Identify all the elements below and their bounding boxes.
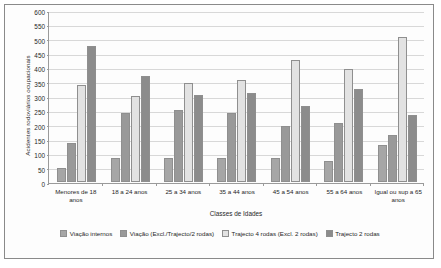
bar-group — [264, 12, 317, 182]
bar — [334, 123, 343, 182]
x-axis-tick-mark — [264, 183, 317, 186]
bar — [184, 83, 193, 182]
legend-label: Viação internos — [70, 230, 113, 237]
y-axis-tick-label: 200 — [34, 123, 45, 130]
y-axis-tick-label: 300 — [34, 95, 45, 102]
x-axis-category-label: 45 a 54 anos — [264, 188, 318, 203]
legend-swatch-icon — [222, 230, 229, 237]
chart-legend: Viação internosViação (Excl./Trajecto/2 … — [8, 230, 432, 237]
plot-wrapper: 050100150200250300350400450500550600 — [48, 12, 424, 184]
y-axis-tick-mark — [47, 69, 49, 70]
bar-group — [157, 12, 210, 182]
x-axis-category-labels: Menores de 18 anos18 a 24 anos25 a 34 an… — [49, 188, 425, 203]
x-axis-ticks — [50, 183, 424, 186]
bar — [281, 126, 290, 182]
y-axis-tick-mark — [47, 98, 49, 99]
y-axis-tick-mark — [47, 126, 49, 127]
bar-groups — [50, 12, 424, 182]
bar — [87, 46, 96, 182]
y-axis-tick-label: 250 — [34, 109, 45, 116]
bar — [344, 69, 353, 182]
bar — [217, 158, 226, 182]
y-axis-tick-label: 100 — [34, 152, 45, 159]
bar — [227, 113, 236, 182]
y-axis-tick-label: 0 — [41, 181, 45, 188]
x-axis-tick-mark — [317, 183, 370, 186]
y-axis-tick-mark — [47, 40, 49, 41]
y-axis-tick-mark — [47, 155, 49, 156]
x-axis-title: Classes de Idades — [48, 210, 424, 217]
legend-swatch-icon — [60, 230, 67, 237]
x-axis-category-label: 55 a 64 anos — [318, 188, 372, 203]
legend-label: Trajecto 2 rodas — [335, 230, 379, 237]
x-axis-category-label: 35 a 44 anos — [210, 188, 264, 203]
bar — [408, 115, 417, 182]
bar — [398, 37, 407, 182]
x-axis-tick-mark — [50, 183, 103, 186]
bar — [194, 95, 203, 182]
legend-item[interactable]: Trajecto 4 rodas (Excl. 2 rodas) — [222, 230, 318, 237]
x-axis-category-label: Menores de 18 anos — [49, 188, 103, 203]
x-axis-tick-mark — [371, 183, 424, 186]
y-axis-tick-mark — [47, 141, 49, 142]
x-axis-tick-mark — [103, 183, 156, 186]
x-axis-tick-mark — [157, 183, 210, 186]
y-axis-tick-label: 50 — [38, 166, 45, 173]
bar — [121, 113, 130, 182]
bar — [77, 85, 86, 182]
legend-label: Viação (Excl./Trajecto/2 rodas) — [130, 230, 214, 237]
y-axis-tick-mark — [47, 55, 49, 56]
y-axis-title: Acidentes rodoviários ocupacionais — [24, 21, 31, 191]
legend-label: Trajecto 4 rodas (Excl. 2 rodas) — [232, 230, 318, 237]
bar — [174, 110, 183, 182]
y-axis-tick-mark — [47, 83, 49, 84]
y-axis-tick-mark — [47, 169, 49, 170]
bar — [237, 80, 246, 182]
bar — [271, 158, 280, 182]
y-axis-tick-mark — [47, 12, 49, 13]
y-axis-tick-label: 350 — [34, 80, 45, 87]
y-axis-tick-label: 500 — [34, 37, 45, 44]
bar — [291, 60, 300, 182]
bar-group — [371, 12, 424, 182]
y-axis-tick-label: 450 — [34, 52, 45, 59]
y-axis-tick-label: 150 — [34, 138, 45, 145]
chart-container: Acidentes rodoviários ocupacionais 05010… — [0, 0, 441, 268]
legend-item[interactable]: Viação (Excl./Trajecto/2 rodas) — [120, 230, 214, 237]
y-axis-tick-label: 600 — [34, 9, 45, 16]
bar — [301, 106, 310, 182]
legend-swatch-icon — [120, 230, 127, 237]
bar — [324, 161, 333, 183]
legend-item[interactable]: Trajecto 2 rodas — [326, 230, 380, 237]
bar — [378, 145, 387, 182]
bar — [247, 93, 256, 182]
y-axis-tick-label: 400 — [34, 66, 45, 73]
y-axis-tick-label: 550 — [34, 23, 45, 30]
y-axis-tick-mark — [47, 26, 49, 27]
x-axis-category-label: Igual ou sup a 65 anos — [371, 188, 425, 203]
bar-group — [103, 12, 156, 182]
bar-group — [210, 12, 263, 182]
bar — [354, 89, 363, 182]
x-axis-category-label: 18 a 24 anos — [103, 188, 157, 203]
plot-area: 050100150200250300350400450500550600 — [48, 12, 424, 184]
x-axis-tick-mark — [210, 183, 263, 186]
bar — [57, 168, 66, 182]
legend-item[interactable]: Viação internos — [60, 230, 112, 237]
bar — [164, 158, 173, 182]
y-axis-tick-mark — [47, 112, 49, 113]
y-axis-tick-mark — [47, 184, 49, 185]
bar — [111, 158, 120, 182]
bar — [67, 143, 76, 182]
bar-group — [50, 12, 103, 182]
x-axis-category-label: 25 a 34 anos — [156, 188, 210, 203]
bar-group — [317, 12, 370, 182]
legend-swatch-icon — [326, 230, 333, 237]
bar — [141, 76, 150, 182]
bar — [388, 135, 397, 182]
bar — [131, 96, 140, 182]
